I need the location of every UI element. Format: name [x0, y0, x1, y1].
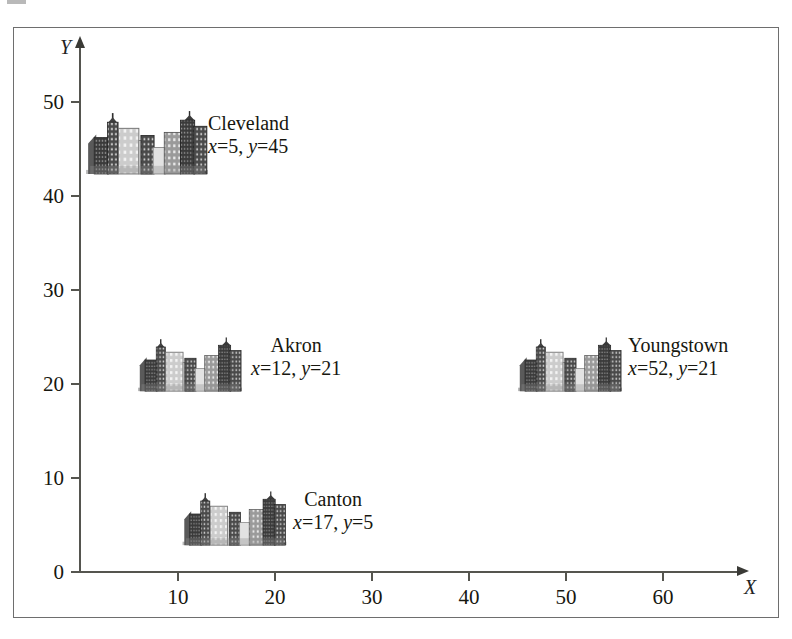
y-tick-label-0: 0	[18, 560, 64, 585]
figure-border: Y X 0 10 20 30 40 50 10 20	[13, 27, 779, 618]
y-variable: y	[343, 511, 352, 533]
x-tick-mark	[371, 572, 373, 581]
city-name-akron: Akron	[251, 334, 341, 357]
city-name-youngstown: Youngstown	[628, 334, 728, 357]
y-variable: y	[678, 357, 687, 379]
x-variable: x	[293, 511, 302, 533]
y-variable: y	[301, 357, 310, 379]
x-tick-label-40: 40	[444, 585, 494, 610]
x-value: 12	[271, 357, 291, 379]
city-label-youngstown: Youngstown x=52, y=21	[628, 334, 728, 380]
x-value: 52	[648, 357, 668, 379]
city-skyline-icon	[138, 334, 242, 392]
y-value: 45	[268, 135, 288, 157]
y-tick-label-20: 20	[18, 372, 64, 397]
city-name-canton: Canton	[293, 488, 373, 511]
y-variable: y	[248, 135, 257, 157]
city-skyline-icon	[182, 488, 287, 546]
x-tick-mark	[274, 572, 276, 581]
city-name-cleveland: Cleveland	[208, 112, 289, 135]
x-axis-label: X	[744, 576, 756, 599]
figure-page: Y X 0 10 20 30 40 50 10 20	[0, 0, 792, 639]
city-coords-youngstown: x=52, y=21	[628, 357, 728, 380]
x-value: 5	[228, 135, 238, 157]
y-tick-mark	[71, 477, 80, 479]
scan-artifact	[7, 0, 26, 4]
city-label-cleveland: Cleveland x=5, y=45	[208, 112, 289, 158]
x-tick-mark	[177, 572, 179, 581]
x-axis-arrow-icon	[737, 566, 749, 576]
city-coords-canton: x=17, y=5	[293, 511, 373, 534]
x-tick-mark	[662, 572, 664, 581]
y-value: 5	[363, 511, 373, 533]
x-tick-mark	[565, 572, 567, 581]
y-tick-mark	[71, 289, 80, 291]
city-label-canton: Canton x=17, y=5	[293, 488, 373, 534]
city-label-akron: Akron x=12, y=21	[251, 334, 341, 380]
y-axis-arrow-icon	[75, 36, 85, 48]
x-value: 17	[313, 511, 333, 533]
y-value: 21	[321, 357, 341, 379]
x-variable: x	[251, 357, 260, 379]
x-tick-label-10: 10	[153, 585, 203, 610]
x-tick-label-60: 60	[638, 585, 688, 610]
x-variable: x	[628, 357, 637, 379]
city-coords-cleveland: x=5, y=45	[208, 135, 289, 158]
y-axis-label: Y	[60, 36, 71, 59]
y-tick-mark	[71, 195, 80, 197]
city-skyline-icon	[86, 107, 208, 175]
y-tick-mark	[71, 571, 80, 573]
y-tick-label-30: 30	[18, 278, 64, 303]
city-skyline-icon	[518, 334, 622, 392]
y-tick-label-50: 50	[18, 90, 64, 115]
y-axis-line	[79, 45, 81, 573]
x-tick-mark	[468, 572, 470, 581]
x-variable: x	[208, 135, 217, 157]
x-tick-label-20: 20	[250, 585, 300, 610]
y-value: 21	[698, 357, 718, 379]
x-tick-label-30: 30	[347, 585, 397, 610]
y-tick-mark	[71, 383, 80, 385]
x-tick-label-50: 50	[541, 585, 591, 610]
y-tick-mark	[71, 101, 80, 103]
city-coords-akron: x=12, y=21	[251, 357, 341, 380]
y-tick-label-40: 40	[18, 184, 64, 209]
plot-area: Y X 0 10 20 30 40 50 10 20	[14, 28, 780, 619]
y-tick-label-10: 10	[18, 466, 64, 491]
